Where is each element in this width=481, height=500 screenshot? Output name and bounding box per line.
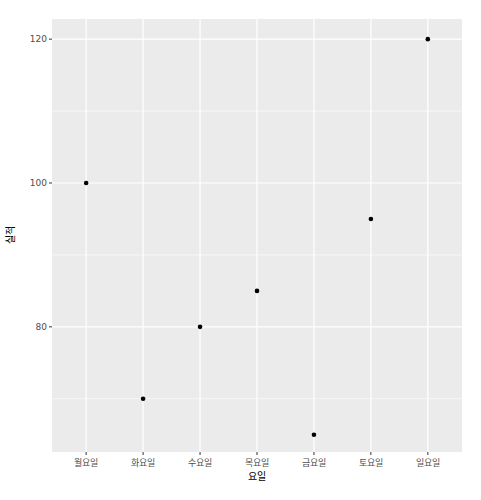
data-point — [426, 37, 431, 42]
x-axis: 월요일화요일수요일목요일금요일토요일일요일 — [74, 452, 440, 468]
data-point — [312, 432, 317, 437]
x-tick-label: 금요일 — [302, 458, 326, 468]
y-tick-label: 100 — [30, 178, 47, 188]
y-tick-label: 120 — [30, 34, 47, 44]
x-tick-label: 목요일 — [245, 458, 269, 468]
x-tick-label: 수요일 — [188, 458, 212, 468]
y-tick-label: 80 — [36, 322, 48, 332]
data-point — [141, 396, 146, 401]
data-point — [198, 325, 203, 330]
data-point — [255, 289, 260, 294]
x-tick-label: 화요일 — [131, 458, 155, 468]
data-point — [84, 181, 89, 186]
data-point — [369, 217, 374, 222]
scatter-chart: 80100120 월요일화요일수요일목요일금요일토요일일요일 요일 실적 — [0, 0, 481, 500]
x-tick-label: 월요일 — [74, 457, 98, 468]
x-tick-label: 일요일 — [416, 458, 440, 468]
x-tick-label: 토요일 — [359, 458, 383, 468]
y-axis-title: 실적 — [5, 226, 16, 244]
y-axis: 80100120 — [30, 34, 52, 332]
x-axis-title: 요일 — [248, 471, 266, 482]
